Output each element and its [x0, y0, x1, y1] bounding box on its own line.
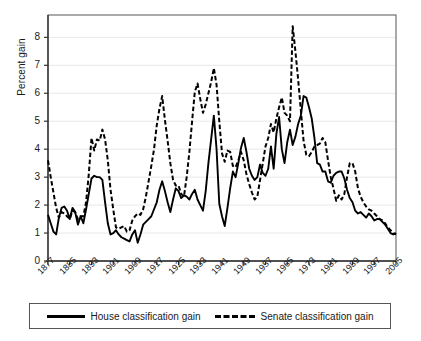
- y-tick-label: 7: [26, 60, 40, 70]
- y-tick-label: 3: [26, 172, 40, 182]
- y-tick-label: 1: [26, 228, 40, 238]
- legend-item: House classification gain: [40, 311, 208, 322]
- plot-area: [0, 0, 421, 341]
- y-tick-label: 6: [26, 88, 40, 98]
- legend-swatch-dashed-icon: [215, 315, 255, 318]
- y-tick-label: 4: [26, 144, 40, 154]
- legend-label: House classification gain: [91, 311, 201, 322]
- legend-item: Senate classification gain: [208, 311, 381, 322]
- y-tick-label: 0: [26, 256, 40, 266]
- y-tick-label: 8: [26, 32, 40, 42]
- y-tick-label: 2: [26, 200, 40, 210]
- y-tick-label: 5: [26, 116, 40, 126]
- legend-label: Senate classification gain: [261, 311, 374, 322]
- legend-swatch-solid-icon: [47, 315, 85, 318]
- chart-legend: House classification gainSenate classifi…: [29, 303, 391, 329]
- chart-figure: Percent gain 012345678 18771885189319011…: [0, 0, 421, 341]
